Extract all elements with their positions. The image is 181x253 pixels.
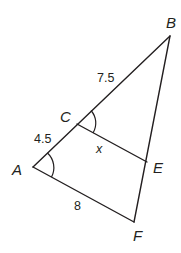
angle-mark-c	[91, 111, 96, 134]
measure-cb: 7.5	[97, 71, 114, 85]
vertex-label-b: B	[166, 14, 176, 31]
segment-ce	[77, 124, 147, 162]
measure-ce: x	[95, 142, 103, 156]
measure-ac: 4.5	[34, 132, 51, 146]
segment-af	[33, 167, 134, 222]
measure-af: 8	[74, 199, 81, 213]
vertex-label-e: E	[153, 159, 164, 176]
segment-bf	[134, 36, 170, 222]
similar-triangles-diagram: B C A E F 7.5 4.5 x 8	[0, 0, 181, 253]
vertex-label-f: F	[133, 227, 143, 244]
vertex-label-c: C	[60, 108, 71, 125]
vertex-label-a: A	[11, 161, 22, 178]
angle-mark-a	[48, 153, 54, 177]
